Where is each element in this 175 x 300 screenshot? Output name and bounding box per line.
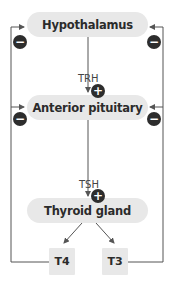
minus-icon: −	[13, 35, 27, 49]
t4-node: T4	[49, 248, 75, 275]
anterior-pituitary-node: Anterior pituitary	[27, 95, 148, 120]
plus-icon: +	[91, 84, 105, 98]
minus-icon: −	[147, 35, 161, 49]
hypothalamus-node: Hypothalamus	[27, 12, 148, 37]
trh-label: TRH	[78, 73, 99, 84]
t3-node: T3	[102, 248, 128, 275]
minus-icon: −	[13, 112, 27, 126]
minus-icon: −	[147, 112, 161, 126]
plus-icon: +	[91, 189, 105, 203]
thyroid-gland-node: Thyroid gland	[27, 198, 148, 223]
